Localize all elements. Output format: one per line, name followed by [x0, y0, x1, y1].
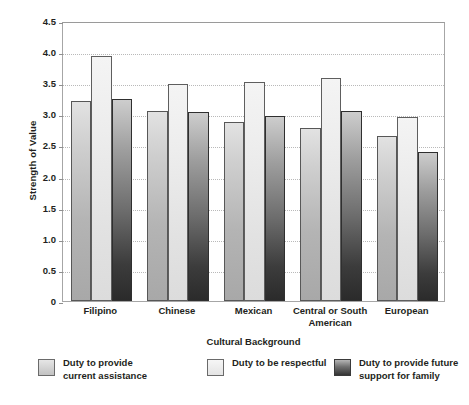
bar-chart-figure: Strength of Value 00.51.01.52.02.53.03.5…	[0, 0, 469, 405]
legend-item: Duty to provide futuresupport for family	[334, 357, 458, 382]
bar	[188, 112, 209, 301]
y-axis-tick-label: 2.5	[22, 142, 56, 152]
y-axis-tick-label: 1.5	[22, 204, 56, 214]
bar	[244, 82, 265, 301]
bar-group	[71, 23, 133, 301]
bar	[377, 136, 398, 302]
bar	[112, 99, 133, 301]
bar	[341, 111, 362, 301]
legend-label: Duty to provide futuresupport for family	[359, 357, 458, 382]
y-axis-tick-label: 3.5	[22, 79, 56, 89]
y-axis-tick-label: 4.5	[22, 17, 56, 27]
x-axis-title: Cultural Background	[62, 336, 445, 347]
y-axis-tick-label: 4.0	[22, 48, 56, 58]
y-axis-tick-label: 0.5	[22, 266, 56, 276]
y-axis-tick-label: 3.0	[22, 111, 56, 121]
y-axis-tick-label: 2.0	[22, 173, 56, 183]
legend-swatch	[207, 359, 224, 376]
y-axis-tick-labels: 00.51.01.52.02.53.03.54.04.5	[22, 22, 56, 302]
legend-label: Duty to be respectful	[232, 357, 327, 370]
bar	[168, 84, 189, 301]
y-axis-tick-mark	[59, 303, 63, 304]
bar	[300, 128, 321, 301]
bar	[418, 152, 439, 301]
legend-swatch	[38, 359, 55, 376]
bar-group	[377, 23, 439, 301]
legend-swatch	[334, 359, 351, 376]
bar-group	[147, 23, 209, 301]
plot-area	[62, 22, 445, 302]
bar	[397, 117, 418, 301]
bar-group	[224, 23, 286, 301]
legend-label: Duty to providecurrent assistance	[63, 357, 147, 382]
chart-legend: Duty to providecurrent assistanceDuty to…	[0, 357, 469, 401]
bar	[71, 101, 92, 301]
bar-groups	[63, 23, 444, 301]
bar	[224, 122, 245, 301]
bar-group	[300, 23, 362, 301]
y-axis-tick-label: 1.0	[22, 235, 56, 245]
bar	[265, 116, 286, 301]
bar	[321, 78, 342, 301]
x-axis-tick-label: European	[356, 305, 457, 317]
bar	[91, 56, 112, 301]
legend-item: Duty to providecurrent assistance	[38, 357, 147, 382]
legend-item: Duty to be respectful	[207, 357, 327, 376]
bar	[147, 111, 168, 301]
x-axis-tick-labels: FilipinoChineseMexicanCentral or SouthAm…	[62, 305, 445, 335]
